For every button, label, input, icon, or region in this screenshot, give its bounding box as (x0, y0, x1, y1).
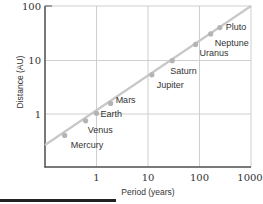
label-venus: Venus (88, 125, 114, 135)
label-earth: Earth (101, 109, 123, 119)
y-axis-label: Distance (AU) (15, 55, 25, 108)
x-tick-100: 100 (190, 172, 209, 183)
planet-labels: MercuryVenusEarthMarsJupiterSaturnUranus… (71, 22, 249, 151)
marker-uranus (193, 42, 198, 47)
kepler-chart: MercuryVenusEarthMarsJupiterSaturnUranus… (0, 0, 263, 204)
marker-jupiter (149, 72, 154, 77)
marker-earth (94, 111, 99, 116)
label-pluto: Pluto (226, 22, 247, 32)
x-tick-10: 10 (142, 172, 155, 183)
x-tick-1000: 1000 (237, 172, 262, 183)
marker-mercury (62, 133, 67, 138)
y-tick-10: 10 (28, 55, 41, 66)
y-tick-1: 1 (35, 109, 41, 120)
marker-pluto (217, 25, 222, 30)
label-neptune: Neptune (215, 38, 249, 48)
label-uranus: Uranus (200, 48, 230, 58)
x-axis-label: Period (years) (121, 187, 175, 197)
y-tick-100: 100 (22, 1, 41, 12)
marker-saturn (170, 58, 175, 63)
caption-rule (0, 199, 116, 202)
label-saturn: Saturn (170, 66, 197, 76)
label-mercury: Mercury (71, 140, 104, 150)
label-jupiter: Jupiter (157, 80, 184, 90)
x-tick-1: 1 (93, 172, 99, 183)
marker-venus (83, 118, 88, 123)
marker-mars (108, 101, 113, 106)
marker-neptune (208, 31, 213, 36)
label-mars: Mars (116, 95, 136, 105)
